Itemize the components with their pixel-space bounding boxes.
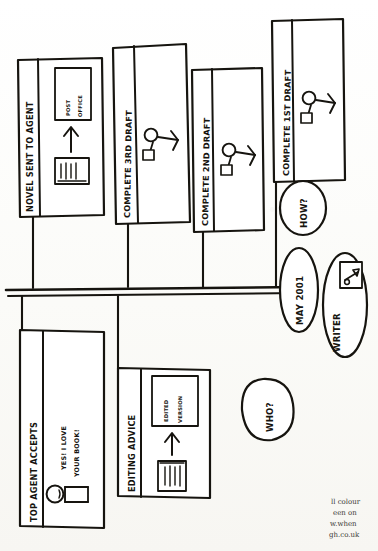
drawing-sheet: NOVEL SENT TO AGENT POST OFFICE xyxy=(0,0,378,551)
actor-writer[interactable]: WRITER xyxy=(323,253,367,357)
novel-sent-to-agent-label: NOVEL SENT TO AGENT xyxy=(25,101,35,212)
question-how-label: HOW? xyxy=(299,198,309,228)
post-office-box: POST OFFICE xyxy=(55,68,91,120)
milestone-complete-2nd-draft[interactable]: COMPLETE 2ND DRAFT xyxy=(192,68,264,232)
may-2001-label: MAY 2001 xyxy=(295,276,305,325)
milestone-complete-1st-draft[interactable]: COMPLETE 1ST DRAFT xyxy=(272,19,345,182)
top-agent-accepts-label: TOP AGENT ACCEPTS xyxy=(29,422,39,522)
milestone-top-agent-accepts[interactable]: TOP AGENT ACCEPTS YES! I LOVE YOUR BOOK! xyxy=(20,330,104,528)
question-how[interactable]: HOW? xyxy=(280,181,326,235)
agent-quote-line-2: YOUR BOOK! xyxy=(73,429,81,478)
milestone-editing-advice[interactable]: EDITING ADVICE EDITED VERSION xyxy=(118,368,210,498)
post-office-line-2: OFFICE xyxy=(77,95,83,117)
writer-label: WRITER xyxy=(332,313,342,352)
credit-line-1: ll colour xyxy=(331,498,360,507)
complete-1st-draft-label: COMPLETE 1ST DRAFT xyxy=(281,69,293,176)
milestone-novel-sent-to-agent[interactable]: NOVEL SENT TO AGENT POST OFFICE xyxy=(18,58,104,217)
credit-line-3: w.when xyxy=(330,520,357,529)
edited-version-line-1: EDITED xyxy=(163,399,169,422)
main-timeline-axis xyxy=(6,287,300,296)
complete-2nd-draft-label: COMPLETE 2ND DRAFT xyxy=(200,117,212,226)
edited-version-line-2: VERSION xyxy=(177,396,183,423)
agent-quote-line-1: YES! I LOVE xyxy=(60,426,68,471)
manuscript-icon xyxy=(55,158,89,184)
question-who[interactable]: WHO? xyxy=(242,379,294,440)
diagram-canvas: NOVEL SENT TO AGENT POST OFFICE xyxy=(0,0,378,551)
editing-advice-label: EDITING ADVICE xyxy=(127,415,137,492)
complete-3rd-draft-label: COMPLETE 3RD DRAFT xyxy=(122,110,134,218)
credit-line-2: een on xyxy=(333,509,357,518)
timeline-start-label[interactable]: MAY 2001 xyxy=(280,248,318,332)
post-office-line-1: POST xyxy=(65,99,71,116)
credit-line-4: gh.co.uk xyxy=(329,531,359,540)
question-who-label: WHO? xyxy=(265,402,275,432)
manuscript-icon xyxy=(158,461,186,491)
milestone-complete-3rd-draft[interactable]: COMPLETE 3RD DRAFT xyxy=(113,44,190,224)
pen-in-box-icon xyxy=(340,262,362,288)
edited-version-box: EDITED VERSION xyxy=(152,376,198,426)
